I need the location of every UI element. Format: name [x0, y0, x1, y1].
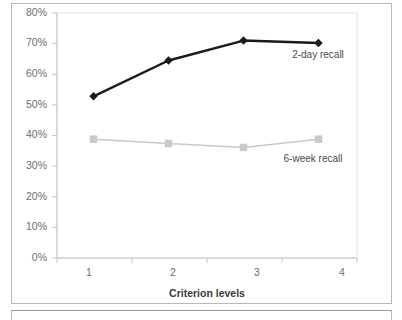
- x-axis-ticks: [57, 258, 357, 263]
- data-point-marker: [315, 135, 323, 143]
- data-point-marker: [90, 135, 98, 143]
- series-label-6-week-recall: 6-week recall: [284, 153, 343, 164]
- x-tick-label-1: 1: [86, 266, 92, 278]
- x-axis-title: Criterion levels: [169, 287, 245, 299]
- y-tick-label-10: 10%: [26, 220, 47, 232]
- y-tick-label-30: 30%: [26, 159, 47, 171]
- x-tick-label-4: 4: [339, 266, 345, 278]
- y-tick-label-40: 40%: [26, 128, 47, 140]
- data-point-marker: [240, 144, 248, 152]
- y-tick-label-60: 60%: [26, 67, 47, 79]
- y-tick-label-20: 20%: [26, 190, 47, 202]
- figure-caption-strip: [11, 310, 392, 320]
- y-axis-ticks: [52, 13, 57, 258]
- x-tick-label-2: 2: [170, 266, 176, 278]
- y-tick-label-0: 0%: [32, 251, 47, 263]
- y-tick-label-50: 50%: [26, 98, 47, 110]
- y-tick-label-70: 70%: [26, 36, 47, 48]
- x-tick-label-3: 3: [254, 266, 260, 278]
- y-tick-label-80: 80%: [26, 6, 47, 18]
- series-label-2-day-recall: 2-day recall: [292, 49, 344, 60]
- chart-container: 80% 70% 60% 50% 40% 30% 20% 10% 0% 1 2 3…: [0, 0, 402, 320]
- line-chart: 80% 70% 60% 50% 40% 30% 20% 10% 0% 1 2 3…: [0, 0, 402, 320]
- data-point-marker: [165, 140, 173, 148]
